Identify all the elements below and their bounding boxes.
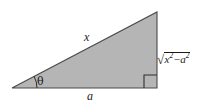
base-label: a bbox=[87, 90, 93, 102]
radical-expression: √x2−a2 bbox=[157, 52, 190, 66]
vertical-leg-label: √x2−a2 bbox=[157, 52, 190, 66]
hypotenuse-label: x bbox=[84, 31, 89, 43]
angle-theta-label: θ bbox=[37, 76, 44, 87]
radicand-second-exponent: 2 bbox=[186, 52, 190, 60]
radicand: x2−a2 bbox=[164, 52, 191, 65]
